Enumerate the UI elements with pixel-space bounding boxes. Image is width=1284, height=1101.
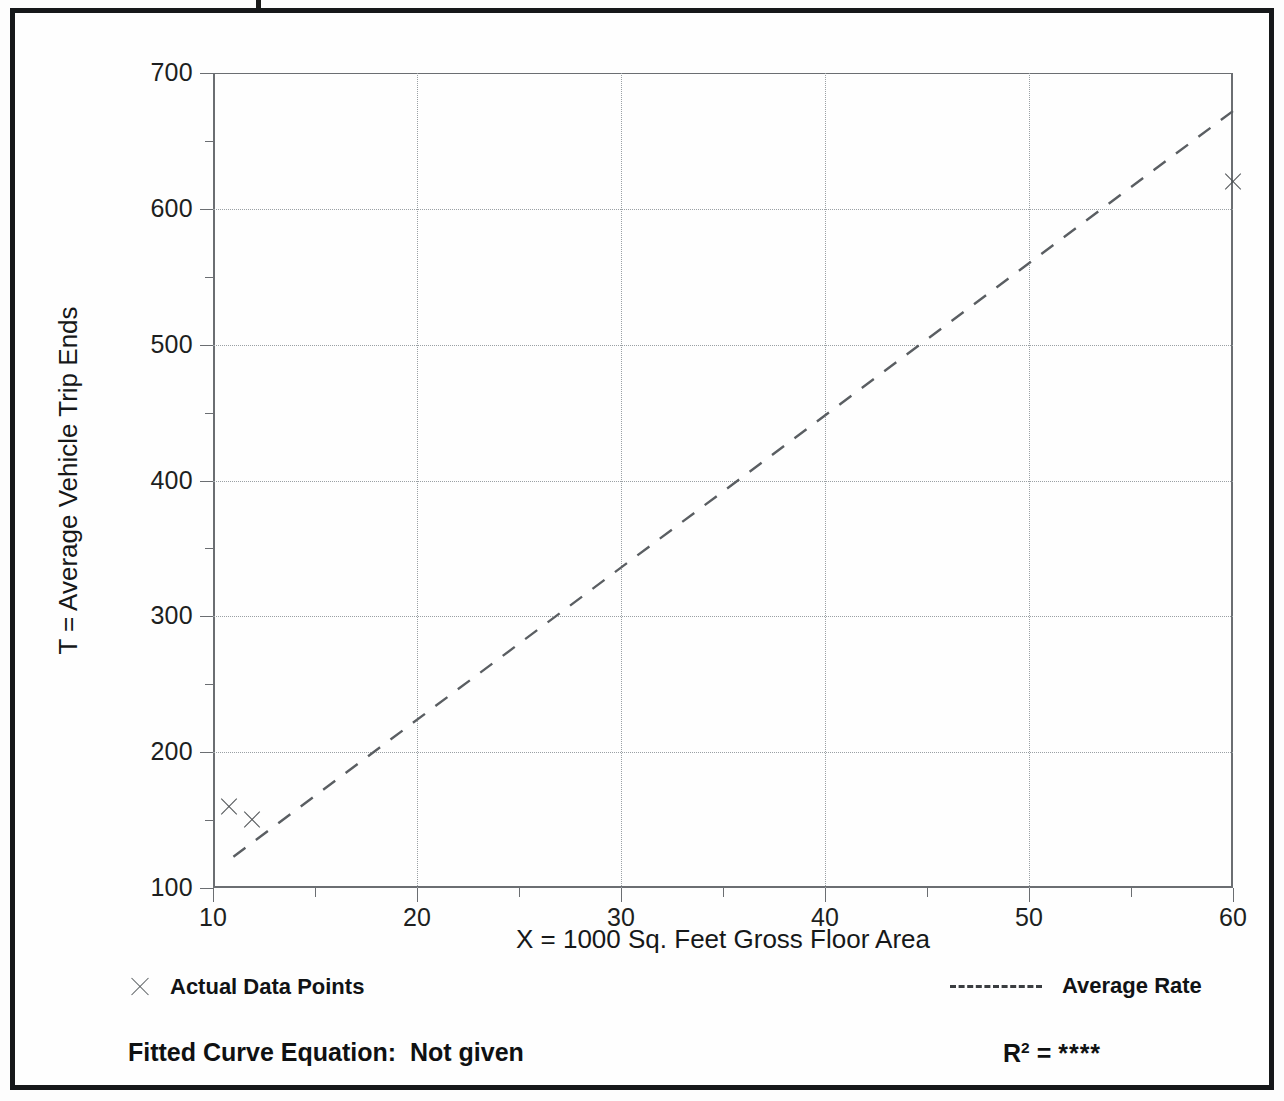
x-tick-label: 20 [372, 905, 462, 930]
y-tick-major [200, 209, 213, 210]
x-tick-label: 60 [1188, 905, 1278, 930]
x-tick-major [417, 888, 418, 902]
y-tick-minor [205, 413, 213, 414]
x-tick-minor [519, 888, 520, 897]
y-tick-major [200, 888, 213, 889]
legend-actual-data-points-label: Actual Data Points [170, 976, 364, 998]
y-tick-minor [205, 684, 213, 685]
legend-average-rate-label: Average Rate [1062, 975, 1202, 997]
x-tick-major [825, 888, 826, 902]
y-tick-major [200, 616, 213, 617]
r-squared-equals: = [1030, 1039, 1059, 1067]
y-tick-minor [205, 548, 213, 549]
y-tick-label: 400 [73, 468, 193, 493]
y-tick-minor [205, 820, 213, 821]
x-tick-major [1233, 888, 1234, 902]
y-tick-label: 300 [73, 603, 193, 628]
y-tick-label: 200 [73, 739, 193, 764]
r-squared-exponent: 2 [1021, 1039, 1030, 1056]
r-squared-value: **** [1058, 1039, 1101, 1067]
figure-border: T = Average Vehicle Trip Ends X = 1000 S… [10, 8, 1274, 1090]
average-rate-trend-line [213, 73, 1233, 888]
y-tick-minor [205, 141, 213, 142]
x-tick-minor [723, 888, 724, 897]
chart-page: T = Average Vehicle Trip Ends X = 1000 S… [0, 0, 1284, 1101]
x-tick-label: 40 [780, 905, 870, 930]
y-tick-label: 100 [73, 875, 193, 900]
x-axis-title: X = 1000 Sq. Feet Gross Floor Area [213, 925, 1233, 954]
y-tick-label: 600 [73, 196, 193, 221]
x-tick-label: 30 [576, 905, 666, 930]
plot-area: 100200300400500600700 102030405060 [213, 73, 1233, 888]
y-tick-major [200, 73, 213, 74]
y-tick-label: 500 [73, 332, 193, 357]
fitted-curve-equation-text: Fitted Curve Equation: Not given [128, 1040, 524, 1065]
y-tick-major [200, 481, 213, 482]
r-squared-symbol: R [1003, 1039, 1021, 1067]
x-tick-major [1029, 888, 1030, 902]
x-tick-minor [315, 888, 316, 897]
dashed-line-icon [950, 985, 1042, 988]
x-tick-label: 50 [984, 905, 1074, 930]
y-tick-minor [205, 277, 213, 278]
x-tick-minor [927, 888, 928, 897]
y-tick-major [200, 345, 213, 346]
legend-actual-data-points: Actual Data Points [128, 975, 364, 999]
x-tick-major [213, 888, 214, 902]
y-tick-major [200, 752, 213, 753]
x-tick-major [621, 888, 622, 902]
x-tick-minor [1131, 888, 1132, 897]
x-tick-label: 10 [168, 905, 258, 930]
legend-average-rate: Average Rate [950, 975, 1202, 997]
y-tick-label: 700 [73, 60, 193, 85]
x-marker-icon [128, 975, 152, 999]
r-squared-text: R2 = **** [1003, 1040, 1101, 1066]
